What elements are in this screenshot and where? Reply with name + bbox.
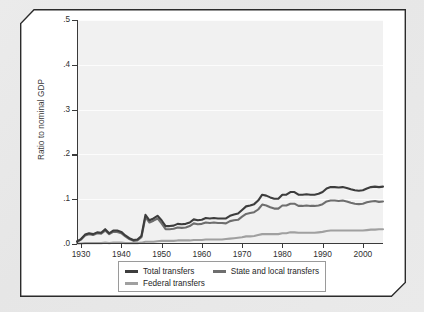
legend-swatch-icon: [125, 270, 138, 273]
y-tick-mark: [72, 199, 77, 200]
y-tick-label: .3: [50, 105, 70, 114]
x-tick-label: 1930: [61, 249, 101, 259]
legend-label: Total transfers: [143, 267, 194, 276]
y-tick-mark: [72, 65, 77, 66]
legend-swatch-icon: [125, 282, 138, 285]
x-tick-mark: [282, 244, 283, 248]
legend-label: State and local transfers: [231, 267, 319, 276]
legend-item[interactable]: Total transfers: [125, 267, 213, 276]
plot-area: [77, 20, 383, 244]
legend-item[interactable]: Federal transfers: [125, 279, 205, 288]
series-line: [77, 187, 383, 242]
x-tick-label: 2000: [343, 249, 383, 259]
x-tick-mark: [202, 244, 203, 248]
y-tick-label: .4: [50, 60, 70, 69]
y-tick-mark: [72, 154, 77, 155]
x-tick-label: 1970: [222, 249, 262, 259]
x-tick-label: 1960: [182, 249, 222, 259]
x-tick-mark: [121, 244, 122, 248]
x-tick-label: 1940: [101, 249, 141, 259]
y-tick-label: .5: [50, 15, 70, 24]
y-tick-label: .0: [50, 239, 70, 248]
y-tick-mark: [72, 20, 77, 21]
page-background: Ratio to nominal GDP .0.1.2.3.4.5 193019…: [0, 0, 424, 312]
legend-swatch-icon: [213, 270, 226, 273]
series-line: [77, 201, 383, 242]
y-tick-label: .1: [50, 194, 70, 203]
x-tick-mark: [162, 244, 163, 248]
x-axis-line: [77, 243, 383, 244]
x-tick-mark: [323, 244, 324, 248]
legend-row: Total transfersState and local transfers: [125, 266, 319, 277]
x-tick-mark: [363, 244, 364, 248]
series-line: [77, 229, 383, 243]
legend-row: Federal transfers: [125, 278, 319, 289]
legend-item[interactable]: State and local transfers: [213, 267, 319, 276]
x-tick-label: 1990: [303, 249, 343, 259]
y-axis-line: [77, 20, 78, 244]
chart-legend: Total transfersState and local transfers…: [118, 261, 326, 292]
legend-label: Federal transfers: [143, 279, 205, 288]
y-axis-title: Ratio to nominal GDP: [37, 50, 46, 190]
y-tick-label: .2: [50, 149, 70, 158]
y-tick-mark: [72, 110, 77, 111]
series-lines: [77, 20, 383, 244]
x-tick-label: 1950: [142, 249, 182, 259]
y-tick-mark: [72, 244, 77, 245]
x-tick-label: 1980: [262, 249, 302, 259]
x-tick-mark: [242, 244, 243, 248]
x-tick-mark: [81, 244, 82, 248]
chart-figure: Ratio to nominal GDP .0.1.2.3.4.5 193019…: [20, 9, 406, 297]
